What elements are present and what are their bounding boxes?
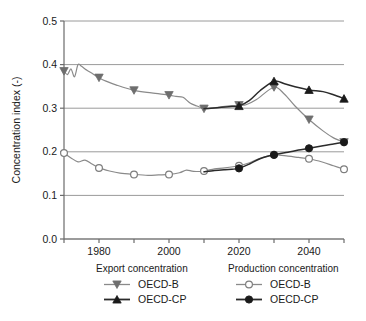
data-point-marker <box>131 171 138 178</box>
y-axis-title: Concentration index (-) <box>10 77 22 184</box>
y-tick-label: 0.3 <box>42 102 57 114</box>
y-tick-label: 0.4 <box>42 58 57 70</box>
data-point-marker <box>340 139 347 146</box>
x-tick-label: 2040 <box>297 245 321 257</box>
y-tick-label: 0.1 <box>42 189 57 201</box>
legend-marker <box>246 281 253 288</box>
legend-marker <box>245 296 252 303</box>
data-point-marker <box>306 155 313 162</box>
legend-entry-label: OECD-B <box>270 278 311 290</box>
y-tick-label: 0.5 <box>42 15 57 27</box>
legend-entry-label: OECD-CP <box>270 293 318 305</box>
x-tick-label: 1980 <box>87 245 111 257</box>
data-point-marker <box>61 150 68 157</box>
legend-entry-label: OECD-CP <box>138 293 186 305</box>
y-tick-label: 0.0 <box>42 233 57 245</box>
data-point-marker <box>166 171 173 178</box>
x-tick-label: 2020 <box>227 245 251 257</box>
data-point-marker <box>305 145 312 152</box>
y-tick-label: 0.2 <box>42 145 57 157</box>
legend-group-export: Export concentrationOECD-BOECD-CP <box>96 263 188 305</box>
data-point-marker <box>341 166 348 173</box>
x-tick-label: 2000 <box>157 245 181 257</box>
data-point-marker <box>270 151 277 158</box>
legend-group-heading: Export concentration <box>96 263 188 274</box>
data-point-marker <box>96 165 103 172</box>
data-point-marker <box>235 165 242 172</box>
legend-entry-label: OECD-B <box>138 278 179 290</box>
concentration-index-line-chart: 0.50.40.30.20.10.0 1980200020202040 Conc… <box>0 0 366 321</box>
legend-group-heading: Production concentration <box>228 263 339 274</box>
chart-figure: 0.50.40.30.20.10.0 1980200020202040 Conc… <box>0 0 366 321</box>
